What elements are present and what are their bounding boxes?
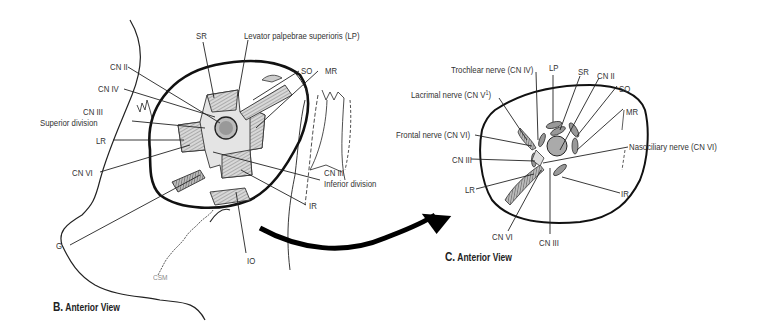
panel-c-letter: C. [445,250,455,264]
panel-c-orbit-rim [480,85,648,223]
anatomy-illustration [0,0,758,331]
lacrimal-close: ) [488,89,491,100]
panel-c-caption-text: Anterior View [457,252,512,263]
label-sr: SR [196,30,207,41]
label-ir: IR [621,188,629,199]
panel-b-caption: B. Anterior View [53,300,120,314]
label-nasociliary-nerve: Nasociliary nerve (CN VI) [629,141,717,152]
label-inferior-division: Inferior division [324,178,376,189]
label-so: SO [301,65,312,76]
label-cn6: CN VI [492,231,513,242]
panel-b-caption-text: Anterior View [65,302,120,313]
label-io: IO [247,255,255,266]
label-g: G [56,240,62,251]
label-mr: MR [325,65,337,76]
label-levator-palpebrae: Levator palpebrae superioris (LP) [244,30,360,41]
label-lacrimal-nerve: Lacrimal nerve (CN V1) [411,87,491,100]
label-ir: IR [309,200,317,211]
label-cn3-inferior: CN III [324,167,344,178]
lacrimal-text: Lacrimal nerve (CN V [411,89,485,100]
label-trochlear-nerve: Trochlear nerve (CN IV) [451,64,533,75]
panel-c-caption: C. Anterior View [445,250,512,264]
artist-signature: CSM [153,272,168,283]
label-so: SO [619,83,630,94]
arrow-b-to-c [260,215,435,248]
arrow-head [422,205,456,237]
label-lp: LP [549,62,559,73]
label-mr: MR [626,106,638,117]
label-sr: SR [578,66,589,77]
label-cn2: CN II [110,61,128,72]
label-cn4: CN IV [98,83,119,94]
label-lr: LR [96,135,106,146]
label-cn6: CN VI [72,167,93,178]
label-cn2: CN II [597,70,615,81]
label-lr: LR [465,184,475,195]
label-cn3: CN III [452,154,472,165]
label-superior-division: Superior division [40,117,98,128]
label-cn3-bottom: CN III [539,237,559,248]
panel-b-letter: B. [53,300,63,314]
label-frontal-nerve: Frontal nerve (CN VI) [396,129,470,140]
label-cn3-superior: CN III [83,106,103,117]
